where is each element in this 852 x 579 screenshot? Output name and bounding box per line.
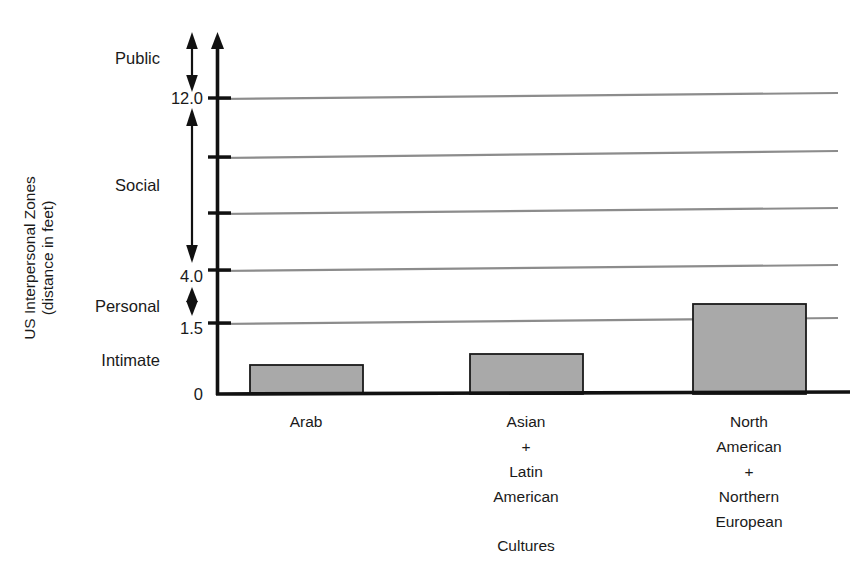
category-label-asian-latin-american: Asian + Latin American (493, 413, 558, 505)
y-axis-title-line2: (distance in feet) (39, 201, 56, 316)
category-label-na-line4: Northern (719, 488, 779, 505)
x-axis-line (216, 392, 850, 394)
gridline-4 (217, 265, 838, 271)
gridline-7 (217, 208, 838, 214)
bars (250, 304, 806, 394)
ytick-label-0: 0 (194, 385, 203, 403)
zone-label-personal: Personal (95, 297, 160, 315)
gridlines (217, 93, 838, 324)
category-label-arab: Arab (290, 413, 323, 430)
bar-arab[interactable] (250, 365, 363, 394)
y-axis-arrowhead-icon (211, 32, 224, 49)
category-label-na-line1: North (730, 413, 768, 430)
zone-label-social: Social (115, 176, 160, 194)
category-label-asian-line4: American (493, 488, 558, 505)
gridline-9 (217, 151, 838, 158)
category-label-asian-line2: + (521, 438, 530, 455)
category-label-asian-line1: Asian (507, 413, 546, 430)
y-axis-title: US Interpersonal Zones (distance in feet… (21, 176, 56, 340)
category-label-na-line5: European (715, 513, 782, 530)
x-axis-title: Cultures (497, 537, 555, 554)
bracket-social-icon (186, 108, 198, 263)
ytick-label-4: 4.0 (180, 267, 203, 285)
category-label-na-line2: American (716, 438, 781, 455)
category-label-na-line3: + (744, 463, 753, 480)
x-category-labels: Arab Asian + Latin American North Americ… (290, 413, 783, 530)
y-tick-marks (208, 98, 231, 323)
category-label-arab-line1: Arab (290, 413, 323, 430)
zone-label-intimate: Intimate (101, 351, 160, 369)
ytick-label-1-5: 1.5 (180, 319, 203, 337)
chart-container: 12.0 4.0 1.5 0 Public Social Personal In… (0, 0, 852, 579)
zone-labels: Public Social Personal Intimate (95, 49, 160, 369)
bracket-public-icon (186, 32, 198, 92)
bracket-personal-icon (186, 287, 198, 316)
bar-asian-latin-american[interactable] (470, 354, 583, 394)
zone-label-public: Public (115, 49, 160, 67)
ytick-label-12: 12.0 (171, 89, 203, 107)
bar-chart-figure: 12.0 4.0 1.5 0 Public Social Personal In… (0, 0, 852, 579)
category-label-north-american-northern-european: North American + Northern European (715, 413, 782, 530)
gridline-12 (217, 93, 838, 99)
category-label-asian-line3: Latin (509, 463, 543, 480)
y-axis-title-line1: US Interpersonal Zones (21, 176, 38, 340)
bar-north-american-northern-european[interactable] (693, 304, 806, 394)
